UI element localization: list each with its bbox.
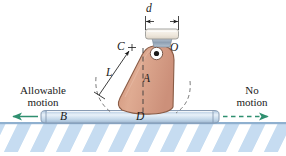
ground-hatching — [0, 122, 286, 152]
allowable-motion-label: Allowable motion — [4, 84, 82, 109]
top-block — [146, 29, 179, 39]
no-motion-label: No motion — [222, 84, 282, 109]
label-d: d — [146, 2, 152, 15]
label-O: O — [170, 41, 178, 54]
dimension-d — [146, 16, 179, 30]
no-motion-line2: motion — [236, 96, 267, 108]
label-B: B — [60, 110, 67, 123]
label-L: L — [106, 66, 112, 79]
no-motion-line1: No — [245, 84, 258, 96]
label-A: A — [143, 72, 150, 85]
point-C-marker — [128, 44, 136, 51]
allowable-motion-line2: motion — [27, 96, 58, 108]
label-C: C — [117, 40, 125, 53]
pin-joint-O — [150, 47, 162, 59]
mechanics-figure: d C O L A B D Allowable motion No motion — [0, 0, 286, 156]
allowable-motion-line1: Allowable — [20, 84, 66, 96]
label-D: D — [136, 110, 144, 123]
